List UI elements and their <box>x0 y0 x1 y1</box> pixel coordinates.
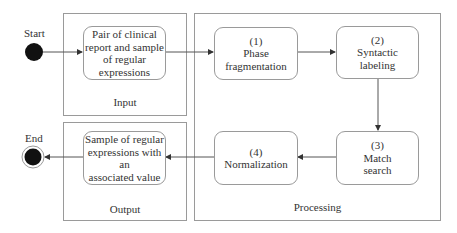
node-line: expressions <box>99 66 150 79</box>
node-line: Sample of regular <box>85 133 164 146</box>
node-line: search <box>363 164 391 177</box>
node-line: Phase <box>243 47 269 60</box>
node-line: Syntactic <box>357 46 398 59</box>
start-node-icon <box>25 43 43 61</box>
node-line: expressions with an <box>84 146 165 171</box>
node-line: fragmentation <box>225 60 287 73</box>
step4-normalization: (4) Normalization <box>214 131 298 185</box>
node-line: Pair of clinical <box>92 28 157 41</box>
node-line: Match <box>363 152 391 165</box>
node-line: labeling <box>360 59 395 72</box>
node-line: (3) <box>371 139 384 152</box>
node-line: (1) <box>250 35 263 48</box>
step1-phase-fragmentation: (1) Phase fragmentation <box>214 27 298 80</box>
node-line: (2) <box>371 34 384 47</box>
node-line: report and sample <box>85 41 164 54</box>
output-node: Sample of regular expressions with an as… <box>83 131 166 185</box>
node-line: associated value <box>89 171 161 184</box>
node-line: Normalization <box>224 158 288 171</box>
start-label: Start <box>24 27 45 39</box>
step2-syntactic-labeling: (2) Syntactic labeling <box>336 26 419 79</box>
step3-match-search: (3) Match search <box>336 131 419 185</box>
end-label: End <box>25 132 43 144</box>
node-line: of regular <box>103 53 146 66</box>
node-line: (4) <box>250 146 263 159</box>
end-node-icon <box>25 149 42 166</box>
input-node: Pair of clinical report and sample of re… <box>83 26 166 80</box>
